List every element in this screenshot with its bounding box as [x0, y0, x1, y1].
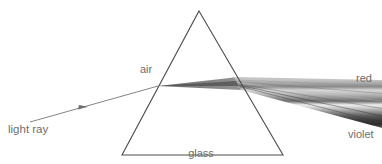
incident-ray-line — [30, 86, 158, 122]
dispersed-spectrum-fan — [233, 77, 382, 128]
prism-dispersion-figure: light ray air glass prism red violet — [0, 0, 382, 164]
label-red: red — [356, 72, 372, 84]
label-light-ray: light ray — [8, 123, 48, 136]
label-air: air — [140, 63, 152, 75]
internal-refracted-beam — [158, 78, 241, 91]
incident-light-ray — [30, 86, 158, 122]
label-glass: glass — [178, 147, 224, 159]
label-violet: violet — [348, 128, 374, 140]
label-glass-prism: glass prism — [178, 122, 224, 164]
